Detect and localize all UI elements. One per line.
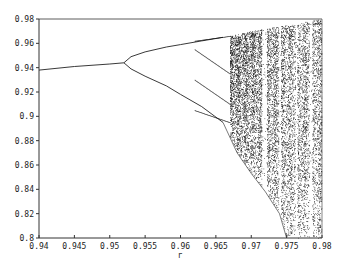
y-tick-label: 0.86 [15, 161, 34, 170]
y-tick-label: 0.9 [20, 112, 35, 121]
x-tick-label: 0.945 [62, 242, 86, 251]
x-axis-label: r [178, 251, 183, 260]
y-tick-label: 0.84 [15, 185, 34, 194]
y-tick-label: 0.88 [15, 137, 34, 146]
y-tick-label: 0.94 [15, 64, 34, 73]
x-tick-label: 0.97 [242, 242, 261, 251]
y-tick-label: 0.82 [15, 210, 34, 219]
x-tick-label: 0.98 [312, 242, 331, 251]
y-ticks: 0.80.820.840.860.880.90.920.940.960.98 [15, 15, 39, 243]
plot-area [39, 19, 322, 238]
bifurcation-chart: 0.940.9450.950.9550.960.9650.970.9750.98… [0, 0, 343, 266]
y-tick-label: 0.8 [20, 234, 35, 243]
x-tick-label: 0.965 [204, 242, 228, 251]
x-tick-label: 0.955 [133, 242, 157, 251]
x-tick-label: 0.95 [100, 242, 119, 251]
y-tick-label: 0.98 [15, 15, 34, 24]
y-tick-label: 0.92 [15, 88, 34, 97]
x-ticks: 0.940.9450.950.9550.960.9650.970.9750.98 [29, 235, 331, 251]
x-tick-label: 0.94 [29, 242, 48, 251]
x-tick-label: 0.96 [171, 242, 190, 251]
x-tick-label: 0.975 [275, 242, 299, 251]
y-tick-label: 0.96 [15, 39, 34, 48]
